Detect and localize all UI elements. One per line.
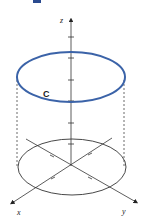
cylinder-diagram: z C x y	[0, 0, 146, 219]
z-axis-label: z	[59, 16, 64, 25]
y-axis-label: y	[121, 207, 126, 216]
curve-label: C	[43, 89, 50, 99]
x-axis-label: x	[16, 208, 21, 217]
figure-marker	[33, 0, 41, 3]
x-axis	[12, 138, 112, 203]
y-axis	[26, 139, 136, 202]
